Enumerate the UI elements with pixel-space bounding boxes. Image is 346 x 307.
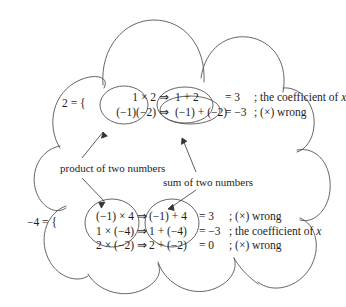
bottom-comment-text-1: the coefficient of [235, 225, 313, 237]
label-sum-of-two-numbers: sum of two numbers [163, 176, 253, 189]
top-comment-text-1: (×) wrong [260, 106, 306, 118]
bottom-equals-row-2: = 0 [199, 238, 221, 253]
top-equals-row-0: = 3 [225, 90, 247, 105]
bottom-comment-var-1: x [316, 225, 321, 237]
bottom-equals-row-0: = 3 [199, 209, 221, 224]
top-product-row-1: (−1)(−2) [98, 105, 156, 120]
top-arrow-row-0: ⇒ [159, 90, 169, 105]
bottom-product-row-2: 2 × (−2) [65, 238, 134, 253]
bottom-sum-row-0: (−1) + 4 [149, 209, 187, 224]
bottom-comment-text-2: (×) wrong [235, 239, 281, 251]
top-sum-row-1: (−1) + (−2) [175, 105, 227, 120]
top-equals: = 3 = −3 [225, 90, 247, 119]
top-semicolon-1: ; [254, 106, 257, 118]
bottom-sum-row-1: 1 + (−4) [149, 224, 187, 239]
bottom-product-row-1: 1 × (−4) [65, 224, 134, 239]
top-semicolon-0: ; [254, 91, 257, 103]
bottom-sums: (−1) + 4 1 + (−4) 2 + (−2) [149, 209, 187, 253]
bottom-arrow-row-0: ⇒ [137, 209, 147, 224]
bottom-semicolon-0: ; [229, 210, 232, 222]
label-product-of-two-numbers: product of two numbers [60, 162, 165, 175]
top-comment-row-0: ; the coefficient of x [254, 90, 346, 105]
bottom-arrow-row-1: ⇒ [137, 224, 147, 239]
bottom-comment-row-2: ; (×) wrong [229, 238, 321, 253]
bottom-comment-text-0: (×) wrong [235, 210, 281, 222]
bottom-semicolon-1: ; [229, 225, 232, 237]
top-comments: ; the coefficient of x ; (×) wrong [254, 90, 346, 119]
top-arrows: ⇒ ⇒ [159, 90, 169, 119]
top-product-row-0: 1 × 2 [98, 90, 156, 105]
top-arrow-row-1: ⇒ [159, 105, 169, 120]
top-products: 1 × 2 (−1)(−2) [98, 90, 156, 119]
top-comment-var-0: x [341, 91, 346, 103]
bottom-comments: ; (×) wrong ; the coefficient of x ; (×)… [229, 209, 321, 253]
bottom-arrow-row-2: ⇒ [137, 238, 147, 253]
bottom-products: (−1) × 4 1 × (−4) 2 × (−2) [65, 209, 134, 253]
top-lhs: 2 = { [62, 97, 86, 110]
bottom-product-row-0: (−1) × 4 [65, 209, 134, 224]
top-sum-row-0: 1 + 2 [175, 90, 227, 105]
top-sums: 1 + 2 (−1) + (−2) [175, 90, 227, 119]
bottom-equals: = 3 = −3 = 0 [199, 209, 221, 253]
top-comment-row-1: ; (×) wrong [254, 105, 346, 120]
bottom-comment-row-1: ; the coefficient of x [229, 224, 321, 239]
bottom-semicolon-2: ; [229, 239, 232, 251]
bottom-arrows: ⇒ ⇒ ⇒ [137, 209, 147, 253]
bottom-comment-row-0: ; (×) wrong [229, 209, 321, 224]
bottom-equals-row-1: = −3 [199, 224, 221, 239]
top-equals-row-1: = −3 [225, 105, 247, 120]
bottom-lhs: −4 = { [27, 216, 57, 229]
top-comment-text-0: the coefficient of [260, 91, 338, 103]
bottom-sum-row-2: 2 + (−2) [149, 238, 187, 253]
